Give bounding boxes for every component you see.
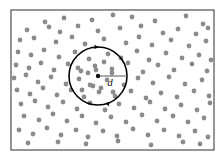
scatter-dot [51, 112, 56, 117]
scatter-dot [43, 20, 48, 25]
scatter-dot [206, 26, 211, 31]
scatter-dot [102, 37, 107, 42]
scatter-dot [147, 58, 152, 63]
scatter-dot [200, 78, 205, 83]
scatter-dot [109, 115, 114, 120]
scatter-dot [183, 82, 188, 87]
scatter-dot [27, 66, 32, 71]
scatter-dot [111, 90, 116, 95]
scatter-dot [70, 35, 75, 40]
scatter-dot [204, 39, 209, 44]
scatter-dot [126, 61, 131, 66]
scatter-dot [74, 128, 79, 133]
scatter-dot [65, 119, 70, 124]
figure-canvas: d [0, 0, 224, 161]
scatter-dot [62, 16, 67, 21]
scatter-dot [195, 108, 200, 113]
scatter-dot [103, 108, 108, 113]
scatter-dot [184, 14, 189, 19]
scatter-dot [144, 96, 149, 101]
scatter-dot [15, 88, 20, 93]
scatter-dot [77, 77, 82, 82]
scatter-dot [177, 134, 182, 139]
scatter-dot [124, 120, 129, 125]
scatter-dot [41, 86, 46, 91]
scatter-dot [201, 22, 206, 27]
scatter-dot [12, 76, 17, 81]
scatter-dot [80, 88, 85, 93]
scatter-dot [47, 25, 52, 30]
scatter-dot [32, 36, 37, 41]
scatter-dot [206, 135, 211, 140]
scatter-dot [54, 40, 59, 45]
scatter-dot [52, 68, 57, 73]
scatter-dot [84, 142, 89, 147]
scatter-dot [49, 75, 54, 80]
scatter-dot [31, 132, 36, 137]
scatter-dot [169, 38, 174, 43]
scatter-dot [175, 95, 180, 100]
scatter-dot [24, 73, 29, 78]
scatter-dot [57, 55, 62, 60]
scatter-dot [208, 101, 213, 106]
scatter-dot [159, 91, 164, 96]
scatter-dot [96, 29, 101, 34]
scatter-dot [161, 31, 166, 36]
scatter-dot [187, 44, 192, 49]
scatter-dot [14, 63, 19, 68]
scatter-figure: d [0, 0, 224, 161]
scatter-dot [87, 57, 92, 62]
scatter-dot [116, 139, 121, 144]
scatter-dot [130, 15, 135, 20]
scatter-dot [207, 94, 212, 99]
scatter-dot [102, 60, 107, 65]
scatter-dot [101, 129, 106, 134]
scatter-dot [58, 30, 63, 35]
scatter-dot [29, 53, 34, 58]
scatter-dot [141, 70, 146, 75]
scatter-dot [39, 61, 44, 66]
scatter-dot [146, 133, 151, 138]
scatter-dot [94, 121, 99, 126]
scatter-dot [59, 133, 64, 138]
scatter-dot [117, 102, 122, 107]
scatter-dot [28, 92, 33, 97]
scatter-dot [129, 89, 134, 94]
scatter-dot [149, 143, 154, 148]
scatter-dot [86, 135, 91, 140]
scatter-dot [45, 126, 50, 131]
scatter-dot [197, 53, 202, 58]
scatter-dot [88, 83, 93, 88]
scatter-dot [135, 49, 140, 54]
scatter-dot [37, 118, 42, 123]
scatter-dot [46, 105, 51, 110]
scatter-dot [155, 119, 160, 124]
scatter-dot [190, 62, 195, 67]
scatter-dot [118, 26, 123, 31]
scatter-dot [94, 68, 99, 73]
circle-center-dot [96, 74, 100, 78]
scatter-dot [80, 114, 85, 119]
scatter-dot [176, 27, 181, 32]
scatter-dot [86, 71, 91, 76]
scatter-dot [42, 48, 47, 53]
scatter-dot [139, 24, 144, 29]
scatter-dot [131, 127, 136, 132]
scatter-dot [156, 63, 161, 68]
scatter-dot [76, 66, 81, 71]
scatter-dot [55, 93, 60, 98]
scatter-dot [75, 107, 80, 112]
scatter-dot [180, 56, 185, 61]
scatter-dot [136, 76, 141, 81]
scatter-dot [33, 99, 38, 104]
scatter-dot [99, 86, 104, 91]
scatter-dot [124, 41, 129, 46]
scatter-dot [82, 95, 87, 100]
scatter-dot [162, 128, 167, 133]
scatter-dot [148, 100, 153, 105]
scatter-dot [19, 102, 24, 107]
scatter-dot [66, 62, 71, 67]
scatter-dot [202, 116, 207, 121]
scatter-dot [61, 100, 66, 105]
scatter-dot [132, 106, 137, 111]
